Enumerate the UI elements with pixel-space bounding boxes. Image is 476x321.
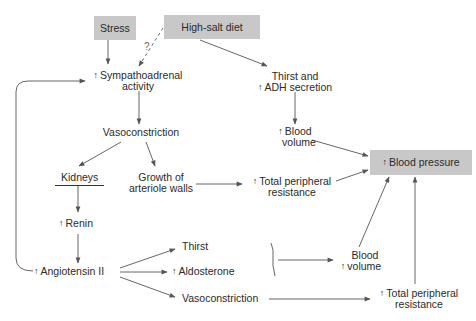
node-thirst-adh: Thirst and ↑ADH secretion xyxy=(249,71,341,93)
uncertain-link-label: ? xyxy=(144,41,150,52)
increase-arrow-icon: ↑ xyxy=(380,288,385,299)
node-kidneys: Kidneys xyxy=(55,172,104,186)
arrow-angiotensin-thirst xyxy=(120,249,175,268)
node-vasoconstriction-2: Vasoconstriction xyxy=(182,293,258,304)
node-line: ADH secretion xyxy=(264,81,332,93)
node-blood-volume-1: ↑Blood volume xyxy=(270,126,320,148)
node-line: Aldosterone xyxy=(179,265,235,277)
arrow-bloodvolume2-bp xyxy=(359,177,389,247)
node-blood-pressure: ↑Blood pressure xyxy=(370,150,472,175)
node-line: Vasoconstriction xyxy=(103,126,179,138)
node-blood-pressure-label: Blood pressure xyxy=(389,156,460,168)
node-line: volume xyxy=(270,137,320,148)
node-total-peripheral-resistance-2: ↑Total peripheral resistance xyxy=(372,288,466,310)
node-blood-volume-2: Blood ↑volume xyxy=(336,250,386,272)
node-line: arteriole walls xyxy=(122,183,200,194)
node-line: Angiotensin II xyxy=(41,265,105,277)
increase-arrow-icon: ↑ xyxy=(59,218,64,229)
bracket-brace xyxy=(271,243,275,276)
increase-arrow-icon: ↑ xyxy=(34,266,39,277)
hypertension-flow-diagram: ? Stress High-salt diet ↑Sympathoadrenal… xyxy=(0,0,476,321)
node-stress-label: Stress xyxy=(100,22,130,34)
increase-arrow-icon: ↑ xyxy=(341,261,346,272)
node-aldosterone: ↑Aldosterone xyxy=(172,266,235,277)
increase-arrow-icon: ↑ xyxy=(253,176,258,187)
arrow-salt-sympathoadrenal-dashed xyxy=(139,28,163,66)
node-total-peripheral-resistance-1: ↑Total peripheral resistance xyxy=(247,176,337,198)
node-line: resistance xyxy=(247,187,337,198)
node-renin: ↑Renin xyxy=(56,218,96,229)
node-vasoconstriction-1: Vasoconstriction xyxy=(96,127,186,138)
increase-arrow-icon: ↑ xyxy=(382,150,387,175)
node-thirst: Thirst xyxy=(182,241,208,252)
node-line: volume xyxy=(347,260,381,272)
node-line: Vasoconstriction xyxy=(182,292,258,304)
increase-arrow-icon: ↑ xyxy=(94,70,99,81)
arrow-vaso-growth xyxy=(146,142,155,166)
arrow-salt-thirst-adh xyxy=(200,40,267,66)
arrow-angiotensin-vaso2 xyxy=(120,277,175,297)
node-high-salt-diet-label: High-salt diet xyxy=(181,21,242,33)
arrow-vaso-kidneys xyxy=(79,142,121,166)
node-sympathoadrenal-activity: ↑Sympathoadrenal activity xyxy=(88,70,188,92)
node-line: Thirst xyxy=(182,240,208,252)
node-stress: Stress xyxy=(94,16,136,40)
node-line: Renin xyxy=(66,217,93,229)
increase-arrow-icon: ↑ xyxy=(172,266,177,277)
node-high-salt-diet: High-salt diet xyxy=(164,15,260,39)
arrow-bloodvolume-bp xyxy=(312,140,368,156)
node-line: Kidneys xyxy=(61,171,98,183)
arrow-tpr-bp xyxy=(336,170,368,181)
node-line: activity xyxy=(88,81,188,92)
node-growth-arteriole-walls: Growth of arteriole walls xyxy=(122,172,200,194)
node-line: resistance xyxy=(372,299,466,310)
increase-arrow-icon: ↑ xyxy=(258,82,263,93)
node-angiotensin-ii: ↑Angiotensin II xyxy=(34,266,104,277)
